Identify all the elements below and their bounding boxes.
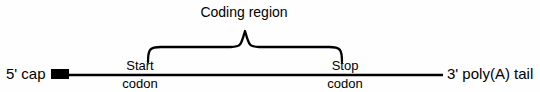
- coding-region-brace: [148, 31, 342, 62]
- coding-region-title: Coding region: [144, 5, 344, 19]
- three-prime-poly-a-tail-label: 3' poly(A) tail: [447, 66, 533, 81]
- five-prime-cap-box: [51, 69, 69, 79]
- start-codon-label-line1: Start: [110, 59, 170, 72]
- start-codon-label-line2: codon: [110, 77, 170, 90]
- stop-codon-label-line2: codon: [315, 77, 375, 90]
- five-prime-cap-label: 5' cap: [6, 66, 46, 81]
- mrna-structure-diagram: Coding region 5' cap 3' poly(A) tail Sta…: [0, 0, 540, 92]
- stop-codon-label-line1: Stop: [315, 59, 375, 72]
